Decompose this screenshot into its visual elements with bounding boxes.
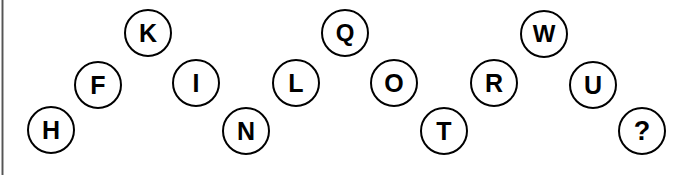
letter-circle-label: R [485, 71, 503, 96]
letter-circle-label: I [193, 71, 200, 96]
letter-circle-unknown[interactable]: ? [618, 107, 666, 155]
letter-circle-label: O [384, 71, 403, 96]
letter-circle-label: H [42, 118, 60, 143]
letter-circle-f[interactable]: F [74, 61, 122, 109]
letter-circle-label: T [436, 119, 451, 144]
letter-circle-label: ? [634, 118, 651, 145]
letter-circle-label: W [533, 22, 556, 46]
letter-circle-h[interactable]: H [27, 106, 75, 154]
letter-circle-t[interactable]: T [420, 107, 468, 155]
letter-circle-u[interactable]: U [569, 61, 617, 109]
letter-circle-i[interactable]: I [172, 59, 220, 107]
puzzle-canvas: HFKINLQOTRWU? [0, 0, 689, 175]
letter-circle-o[interactable]: O [370, 59, 418, 107]
letter-circle-label: Q [336, 21, 355, 45]
letter-circle-r[interactable]: R [470, 59, 518, 107]
left-edge-divider [1, 0, 4, 175]
letter-circle-l[interactable]: L [272, 59, 320, 107]
letter-circle-w[interactable]: W [520, 10, 568, 58]
letter-circle-label: U [584, 73, 602, 98]
letter-circle-k[interactable]: K [124, 9, 172, 57]
letter-circle-label: N [237, 119, 255, 144]
letter-circle-q[interactable]: Q [321, 9, 369, 57]
letter-circle-label: L [288, 71, 303, 96]
letter-circle-label: K [139, 21, 157, 46]
letter-circle-n[interactable]: N [222, 107, 270, 155]
letter-circle-label: F [90, 73, 105, 98]
